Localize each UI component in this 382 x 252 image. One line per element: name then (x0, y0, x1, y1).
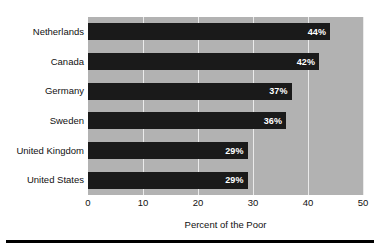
bar-value-label: 42% (297, 57, 315, 66)
y-axis-category-labels: NetherlandsCanadaGermanySwedenUnited Kin… (0, 17, 84, 195)
bar-united-states: 29% (88, 172, 248, 189)
category-label-united-states: United States (2, 175, 84, 185)
bar-netherlands: 44% (88, 23, 330, 40)
category-label-netherlands: Netherlands (2, 27, 84, 37)
x-tick-50: 50 (358, 198, 369, 208)
gridline-40 (308, 17, 309, 195)
bar-row: 44% (88, 23, 363, 40)
bar-sweden: 36% (88, 112, 286, 129)
bar-row: 36% (88, 112, 363, 129)
bar-value-label: 37% (269, 87, 287, 96)
x-tick-0: 0 (85, 198, 90, 208)
bar-value-label: 29% (225, 176, 243, 185)
bar-value-label: 44% (308, 27, 326, 36)
gridline-50 (363, 17, 364, 195)
x-tick-10: 10 (138, 198, 149, 208)
bar-canada: 42% (88, 53, 319, 70)
category-label-united-kingdom: United Kingdom (2, 146, 84, 156)
x-tick-20: 20 (193, 198, 204, 208)
x-tick-30: 30 (248, 198, 259, 208)
bar-germany: 37% (88, 83, 292, 100)
bar-value-label: 29% (225, 146, 243, 155)
bar-row: 29% (88, 142, 363, 159)
plot-area: 44%42%37%36%29%29% (88, 17, 363, 195)
x-axis-tick-labels: 01020304050 (88, 198, 363, 212)
gridline-10 (143, 17, 144, 195)
category-label-sweden: Sweden (2, 116, 84, 126)
bar-value-label: 36% (264, 116, 282, 125)
gridline-30 (253, 17, 254, 195)
chart-figure: NetherlandsCanadaGermanySwedenUnited Kin… (0, 0, 382, 252)
category-label-germany: Germany (2, 86, 84, 96)
bar-row: 29% (88, 172, 363, 189)
gridline-20 (198, 17, 199, 195)
bottom-divider-rule (6, 240, 374, 243)
bar-row: 37% (88, 83, 363, 100)
bar-united-kingdom: 29% (88, 142, 248, 159)
x-tick-40: 40 (303, 198, 314, 208)
category-label-canada: Canada (2, 57, 84, 67)
bar-row: 42% (88, 53, 363, 70)
x-axis-title: Percent of the Poor (88, 220, 363, 230)
